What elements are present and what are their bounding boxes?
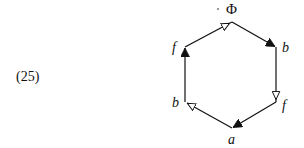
edge-upper-left-to-top <box>185 23 230 47</box>
edge-lower-right-to-bottom <box>233 102 276 128</box>
label-lower-left: b <box>172 95 179 110</box>
hexagon-diagram: Φ b f a b f <box>0 0 304 148</box>
edge-top-to-upper-right <box>232 22 275 47</box>
label-top: Φ <box>226 1 237 17</box>
label-upper-right: b <box>282 40 289 55</box>
hexagon-edges <box>185 22 276 128</box>
label-lower-right: f <box>282 98 288 113</box>
label-upper-left: f <box>172 40 178 55</box>
label-bottom: a <box>228 132 235 147</box>
edge-bottom-to-lower-left <box>187 103 232 128</box>
edge-segment <box>230 22 232 23</box>
